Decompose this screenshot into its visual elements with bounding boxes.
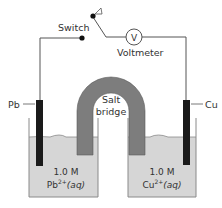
left-species-label: Pb2+(aq) [47, 178, 85, 190]
galvanic-cell-diagram: Switch V Voltmeter Salt bridge Pb Cu 1.0… [0, 0, 222, 208]
switch-lever-icon [95, 8, 102, 14]
pb-electrode-label: Pb [8, 99, 20, 110]
lead-electrode [36, 100, 43, 166]
cu-electrode-label: Cu [205, 99, 218, 110]
voltmeter-label: Voltmeter [117, 47, 164, 58]
right-concentration-label: 1.0 M [150, 167, 175, 177]
left-wire [40, 38, 82, 100]
salt-bridge-label-line1: Salt [102, 94, 120, 105]
switch-label: Switch [58, 22, 89, 33]
switch-arm-wire [93, 17, 126, 37]
copper-electrode [183, 100, 190, 165]
left-concentration-label: 1.0 M [54, 167, 79, 177]
salt-bridge-label-line2: bridge [96, 106, 127, 117]
switch-contact-dot [79, 35, 84, 40]
voltmeter-symbol: V [131, 33, 138, 43]
